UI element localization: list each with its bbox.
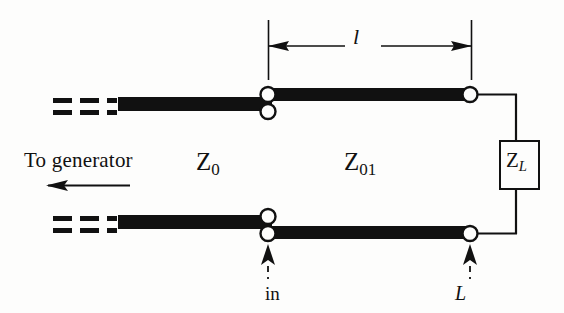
load-plane-label: L <box>455 283 466 303</box>
terminal-circle-in-lower-outer <box>261 226 276 241</box>
length-label: l <box>353 26 359 48</box>
in-callout-arrow <box>261 244 275 279</box>
input-plane-label: in <box>265 284 280 303</box>
dimension-arrowhead-right <box>451 41 472 51</box>
conductor-upper-z0 <box>118 97 272 111</box>
to-generator-arrow <box>46 180 130 191</box>
length-dimension-group <box>268 20 472 80</box>
input-terminal-circles <box>261 87 276 241</box>
conductor-lower-z0 <box>118 215 272 229</box>
upper-feedline-break-dashes <box>53 101 117 113</box>
transmission-line-diagram: To generator Z0 Z01 ZL l in L <box>0 0 564 313</box>
lower-feedline-break-dashes <box>53 219 117 231</box>
zl-symbol: Z <box>506 148 519 172</box>
load-impedance-label: ZL <box>506 150 527 174</box>
z01-symbol: Z <box>344 148 359 175</box>
in-arrowhead <box>261 244 275 265</box>
load-terminal-circles <box>463 87 478 241</box>
terminal-circle-in-upper-outer <box>261 87 276 102</box>
terminal-circle-load-lower <box>463 226 478 241</box>
dimension-arrowhead-left <box>268 41 289 51</box>
z0-subscript: 0 <box>211 160 220 179</box>
z0-symbol: Z <box>196 148 211 175</box>
terminal-circle-in-lower-inner <box>261 209 276 224</box>
conductor-lower-z01 <box>268 226 472 239</box>
z0-impedance-label: Z0 <box>196 149 220 178</box>
conductor-upper-z01 <box>268 88 472 101</box>
to-generator-label: To generator <box>24 150 133 171</box>
terminal-circle-load-upper <box>463 87 478 102</box>
zl-subscript: L <box>519 158 527 174</box>
z01-subscript: 01 <box>359 160 376 179</box>
z01-impedance-label: Z01 <box>344 149 376 178</box>
load-arrowhead <box>463 244 477 265</box>
load-callout-arrow <box>463 244 477 279</box>
terminal-circle-in-upper-inner <box>261 104 276 119</box>
